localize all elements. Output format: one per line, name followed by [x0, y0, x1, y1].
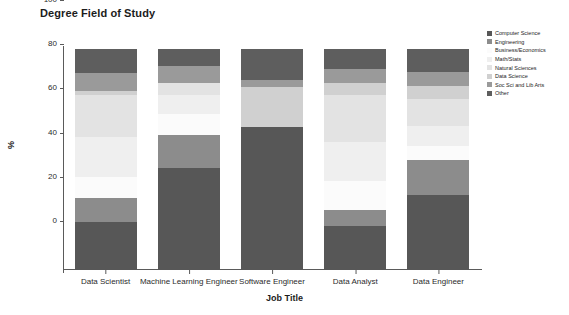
- legend-label: Business/Economics: [495, 47, 546, 53]
- bar-segment: [407, 126, 469, 146]
- bar-segment: [158, 66, 220, 83]
- x-tick: Data Scientist: [81, 270, 130, 279]
- bar-segment: [407, 195, 469, 270]
- legend-label: Natural Sciences: [495, 65, 537, 71]
- bar-segment: [75, 198, 137, 222]
- bar-data-engineer: [407, 49, 469, 270]
- y-tick-label: 60: [48, 82, 57, 93]
- legend-label: Other: [495, 90, 509, 96]
- bar-segment: [407, 146, 469, 160]
- bar-segment: [158, 49, 220, 66]
- y-tick-label: 40: [48, 127, 57, 138]
- legend-item[interactable]: Math/Stats: [487, 55, 546, 64]
- bar-segment: [75, 137, 137, 177]
- x-tick-mark: [355, 270, 356, 274]
- legend-label: Soc Sci and Lib Arts: [495, 82, 544, 88]
- bar-segment: [324, 69, 386, 83]
- bar-segment: [241, 87, 303, 127]
- bar-segment: [407, 99, 469, 126]
- bar-segment: [324, 95, 386, 141]
- x-tick-mark: [106, 270, 107, 274]
- x-tick-label: Data Scientist: [81, 277, 130, 286]
- bar-segment: [75, 222, 137, 270]
- legend-item[interactable]: Engineering: [487, 38, 546, 47]
- y-tick-mark: [60, 44, 64, 45]
- chart-container: Degree Field of Study 020406080100 Data …: [0, 0, 569, 315]
- bar-segment: [75, 177, 137, 198]
- bar-data-analyst: [324, 49, 386, 270]
- x-tick-label: Data Engineer: [413, 277, 464, 286]
- bar-segment: [241, 127, 303, 270]
- bar-segment: [324, 210, 386, 226]
- bar-segment: [324, 49, 386, 69]
- x-tick-mark: [189, 270, 190, 274]
- y-tick: 100: [0, 0, 64, 1]
- bar-data-scientist: [75, 49, 137, 270]
- x-tick-mark: [272, 270, 273, 274]
- x-tick-label: Software Engineer: [239, 277, 305, 286]
- y-tick: 20: [0, 177, 64, 178]
- bar-segment: [407, 86, 469, 99]
- bar-segment: [75, 95, 137, 137]
- legend-label: Data Science: [495, 73, 528, 79]
- legend-swatch-icon: [487, 48, 492, 53]
- bar-segment: [75, 91, 137, 95]
- bar-segment: [407, 160, 469, 196]
- x-tick-mark: [438, 270, 439, 274]
- x-tick: Machine Learning Engineer: [140, 270, 238, 279]
- legend-item[interactable]: Natural Sciences: [487, 63, 546, 72]
- legend-item[interactable]: Business/Economics: [487, 46, 546, 55]
- legend-swatch-icon: [487, 39, 492, 44]
- x-tick: Software Engineer: [239, 270, 305, 279]
- legend-item[interactable]: Data Science: [487, 72, 546, 81]
- y-tick: 80: [0, 44, 64, 45]
- legend-label: Math/Stats: [495, 56, 521, 62]
- bar-segment: [407, 72, 469, 86]
- y-axis-ticks: 020406080100: [0, 0, 64, 221]
- x-axis-label: Job Title: [0, 293, 569, 303]
- x-tick-label: Data Analyst: [333, 277, 378, 286]
- y-tick-label: 100: [44, 0, 57, 5]
- bar-segment: [324, 83, 386, 95]
- legend-label: Engineering: [495, 39, 524, 45]
- bar-segment: [241, 80, 303, 87]
- x-tick-label: Machine Learning Engineer: [140, 277, 238, 286]
- legend-swatch-icon: [487, 74, 492, 79]
- x-tick: Data Engineer: [413, 270, 464, 279]
- y-tick: 60: [0, 88, 64, 89]
- legend-swatch-icon: [487, 57, 492, 62]
- bar-segment: [158, 83, 220, 95]
- bar-segment: [158, 95, 220, 114]
- bar-machine-learning-engineer: [158, 49, 220, 270]
- y-tick: 0: [0, 221, 64, 222]
- y-tick: 40: [0, 133, 64, 134]
- legend-item[interactable]: Soc Sci and Lib Arts: [487, 81, 546, 90]
- y-tick-label: 20: [48, 171, 57, 182]
- bar-segment: [158, 114, 220, 135]
- legend-swatch-icon: [487, 91, 492, 96]
- legend-swatch-icon: [487, 31, 492, 36]
- bar-segment: [75, 49, 137, 73]
- bar-software-engineer: [241, 49, 303, 270]
- bar-segment: [407, 49, 469, 72]
- legend-swatch-icon: [487, 65, 492, 70]
- y-tick-label: 80: [48, 38, 57, 49]
- y-tick-label: 0: [53, 215, 57, 226]
- bar-segment: [158, 135, 220, 168]
- bar-segment: [158, 168, 220, 270]
- legend: Computer ScienceEngineeringBusiness/Econ…: [487, 29, 546, 98]
- bar-segment: [324, 181, 386, 210]
- bar-segment: [241, 49, 303, 80]
- x-tick: Data Analyst: [333, 270, 378, 279]
- legend-item[interactable]: Other: [487, 89, 546, 98]
- bar-segment: [324, 226, 386, 270]
- plot-area: [64, 49, 480, 270]
- bar-segment: [75, 73, 137, 91]
- y-axis-label: %: [6, 141, 16, 149]
- legend-label: Computer Science: [495, 30, 540, 36]
- legend-item[interactable]: Computer Science: [487, 29, 546, 38]
- bar-segment: [324, 142, 386, 182]
- y-tick-mark: [60, 0, 64, 1]
- legend-swatch-icon: [487, 82, 492, 87]
